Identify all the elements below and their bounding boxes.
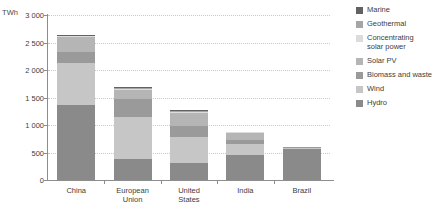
- legend-item-label: Wind: [367, 85, 384, 94]
- bar-segment[interactable]: [114, 117, 152, 159]
- bar-segment[interactable]: [57, 52, 95, 62]
- y-tick-label: 1 500: [4, 94, 44, 103]
- x-tick-mark: [104, 180, 105, 184]
- legend-item[interactable]: Concentrating solar power: [356, 34, 439, 51]
- x-tick-mark: [217, 180, 218, 184]
- plot-area: [48, 15, 330, 180]
- bar-segment[interactable]: [114, 88, 152, 89]
- bar-segment[interactable]: [114, 159, 152, 180]
- y-tick-label: 0: [4, 176, 44, 185]
- x-tick-mark: [161, 180, 162, 184]
- legend-swatch-icon: [356, 72, 363, 79]
- x-axis-label: European Union: [104, 186, 160, 204]
- bar-segment[interactable]: [283, 147, 321, 148]
- legend: MarineGeothermalConcentrating solar powe…: [356, 6, 439, 113]
- bar-segment[interactable]: [57, 105, 95, 180]
- bar-segment[interactable]: [283, 147, 321, 148]
- y-tick-label: 2 500: [4, 39, 44, 48]
- bar-segment[interactable]: [57, 35, 95, 36]
- x-axis-label: China: [48, 186, 104, 195]
- x-axis-label: India: [217, 186, 273, 195]
- legend-item-label: Marine: [367, 6, 390, 15]
- bar-segment[interactable]: [57, 63, 95, 105]
- bar-stack[interactable]: [226, 15, 264, 180]
- x-tick-mark: [274, 180, 275, 184]
- legend-item[interactable]: Wind: [356, 85, 439, 94]
- y-tick-label: 3 000: [4, 11, 44, 20]
- bar-segment[interactable]: [170, 113, 208, 126]
- x-axis-line: [44, 180, 334, 181]
- legend-item[interactable]: Hydro: [356, 99, 439, 108]
- y-tick-mark: [44, 180, 48, 181]
- bar-segment[interactable]: [226, 140, 264, 144]
- stacked-bar-chart: TWh 3 0002 5002 0001 5001 0005000 ChinaE…: [0, 0, 439, 207]
- bar-segment[interactable]: [170, 137, 208, 163]
- legend-swatch-icon: [356, 100, 363, 107]
- legend-item[interactable]: Biomass and waste: [356, 71, 439, 80]
- bar-stack[interactable]: [114, 15, 152, 180]
- y-tick-label: 500: [4, 149, 44, 158]
- bar-segment[interactable]: [170, 163, 208, 180]
- legend-item-label: Biomass and waste: [367, 71, 432, 80]
- legend-item-label: Hydro: [367, 99, 387, 108]
- y-tick-label: 1 000: [4, 121, 44, 130]
- bar-segment[interactable]: [114, 99, 152, 117]
- legend-item-label: Concentrating solar power: [367, 34, 414, 51]
- bar-segment[interactable]: [226, 132, 264, 140]
- legend-item-label: Geothermal: [367, 20, 406, 29]
- legend-item-label: Solar PV: [367, 57, 397, 66]
- legend-swatch-icon: [356, 86, 363, 93]
- x-axis-label: United States: [161, 186, 217, 204]
- x-axis-label: Brazil: [274, 186, 330, 195]
- bar-segment[interactable]: [226, 144, 264, 155]
- bar-stack[interactable]: [283, 15, 321, 180]
- legend-item[interactable]: Solar PV: [356, 57, 439, 66]
- bar-stack[interactable]: [57, 15, 95, 180]
- legend-item[interactable]: Geothermal: [356, 20, 439, 29]
- legend-item[interactable]: Marine: [356, 6, 439, 15]
- bar-segment[interactable]: [226, 155, 264, 180]
- bar-segment[interactable]: [114, 90, 152, 100]
- bar-segment[interactable]: [170, 126, 208, 136]
- bar-segment[interactable]: [57, 36, 95, 52]
- bar-segment[interactable]: [170, 112, 208, 113]
- legend-swatch-icon: [356, 21, 363, 28]
- y-tick-label: 2 000: [4, 66, 44, 75]
- bar-segment[interactable]: [283, 149, 321, 180]
- bar-segment[interactable]: [170, 111, 208, 112]
- bar-stack[interactable]: [170, 15, 208, 180]
- legend-swatch-icon: [356, 7, 363, 14]
- legend-swatch-icon: [356, 58, 363, 65]
- bar-segment[interactable]: [57, 36, 95, 37]
- bar-segment[interactable]: [114, 88, 152, 89]
- legend-swatch-icon: [356, 35, 363, 42]
